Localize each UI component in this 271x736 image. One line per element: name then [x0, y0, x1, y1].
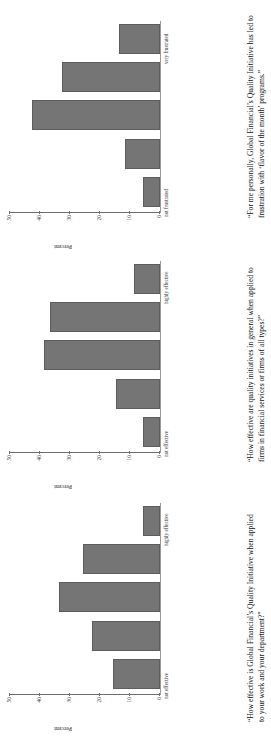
- y-tick-label: 20: [96, 455, 102, 493]
- y-tick-label: 50: [6, 697, 12, 735]
- x-category-label: not effective: [163, 431, 169, 457]
- y-tick-label: 40: [36, 697, 42, 735]
- y-tick-label: 20: [96, 697, 102, 735]
- x-axis-line: [160, 503, 161, 695]
- chart-panel-frustration: Percent 01020304050 not frustratedvery f…: [0, 8, 200, 253]
- y-axis-line: [10, 452, 160, 453]
- y-axis-line: [10, 694, 160, 695]
- bar: [113, 659, 160, 689]
- x-category-label: highly effective: [163, 514, 169, 547]
- bar: [116, 379, 160, 409]
- bar: [32, 101, 160, 131]
- bar: [119, 24, 160, 54]
- bar: [83, 544, 160, 574]
- bar: [59, 583, 160, 613]
- x-category-label: not effective: [163, 673, 169, 699]
- bar: [143, 417, 160, 447]
- chart-rotated-canvas: Percent 01020304050 not frustratedvery f…: [0, 8, 200, 253]
- y-tick-label: 0: [156, 697, 162, 735]
- y-tick-label: 50: [6, 455, 12, 493]
- chart-panel-general-effectiveness: Percent 01020304050 not effectivehighly …: [0, 248, 200, 493]
- y-tick-label: 30: [66, 455, 72, 493]
- y-tick-label: 10: [126, 697, 132, 735]
- y-tick-label: 10: [126, 455, 132, 493]
- x-category-label: highly effective: [163, 272, 169, 305]
- bar: [44, 341, 160, 371]
- x-axis-line: [160, 261, 161, 453]
- chart-rotated-canvas: Percent 01020304050 not effectivehighly …: [0, 248, 200, 493]
- bar: [143, 506, 160, 536]
- y-tick-label: 30: [66, 697, 72, 735]
- bar: [125, 139, 160, 169]
- y-tick-label: 0: [156, 455, 162, 493]
- bar-series: [10, 503, 160, 694]
- y-axis-line: [10, 212, 160, 213]
- chart-rotated-canvas: Percent 01020304050 not effectivehighly …: [0, 490, 200, 735]
- x-category-label: very frustrated: [163, 34, 169, 64]
- x-axis-line: [160, 21, 161, 213]
- bar: [134, 264, 160, 294]
- bar: [50, 302, 160, 332]
- y-tick-label: 40: [36, 455, 42, 493]
- x-category-label: not frustrated: [163, 189, 169, 217]
- bar-series: [10, 261, 160, 452]
- bar: [143, 177, 160, 207]
- caption-frustration: “For me personally, Global Financial’s Q…: [246, 8, 267, 218]
- bar: [62, 62, 160, 92]
- chart-panel-department-effectiveness: Percent 01020304050 not effectivehighly …: [0, 490, 200, 735]
- caption-general-effectiveness: “How effective are quality initiatives i…: [246, 252, 267, 462]
- caption-department-effectiveness: “How effective is Global Financial’s Qua…: [246, 512, 267, 722]
- bar: [92, 621, 160, 651]
- bar-series: [10, 21, 160, 212]
